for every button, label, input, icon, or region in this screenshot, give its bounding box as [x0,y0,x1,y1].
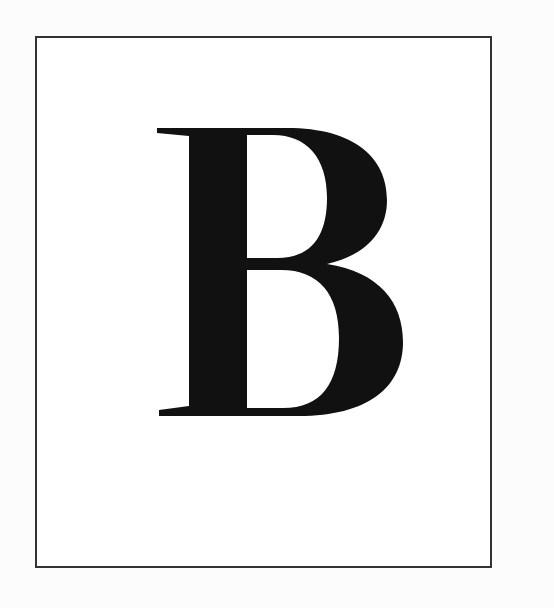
letter-card-frame: B [35,36,492,568]
letter-b-shape [37,38,490,566]
page: B [0,0,554,608]
letter-glyph: B [37,38,490,566]
